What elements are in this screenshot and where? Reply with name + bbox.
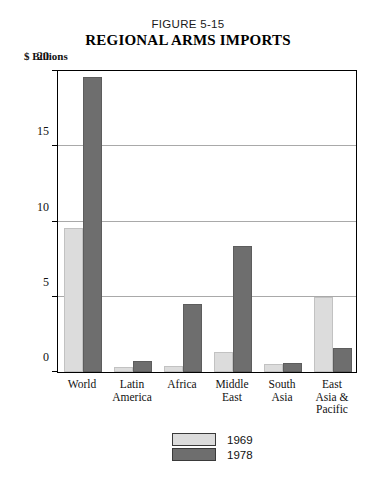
category-label-line: South — [257, 378, 307, 391]
category-label-line: Latin — [107, 378, 157, 391]
bar-group — [108, 71, 158, 372]
y-axis-tick-label: 0 — [43, 350, 49, 365]
bar — [233, 246, 252, 372]
x-axis-category-label: MiddleEast — [207, 378, 257, 403]
legend-item: 1969 — [172, 432, 253, 447]
x-axis-category-label: World — [57, 378, 107, 391]
x-axis-category-label: SouthAsia — [257, 378, 307, 403]
bar — [64, 228, 83, 372]
category-label-line: Africa — [157, 378, 207, 391]
legend-label: 1969 — [227, 434, 253, 446]
y-axis-tick-mark — [52, 70, 57, 71]
category-label-line: Asia & — [307, 391, 357, 404]
category-label-line: Pacific — [307, 403, 357, 416]
legend: 19691978 — [172, 432, 253, 462]
legend-color-swatch — [172, 448, 216, 461]
legend-label: 1978 — [227, 449, 253, 461]
figure-root: FIGURE 5-15 REGIONAL ARMS IMPORTS $ Bill… — [0, 0, 376, 489]
y-axis-tick-label: 20 — [37, 49, 49, 64]
bar-group — [308, 71, 358, 372]
y-axis-tick-mark — [52, 221, 57, 222]
category-label-line: East — [207, 391, 257, 404]
category-label-line: World — [57, 378, 107, 391]
y-axis-tick-mark — [52, 371, 57, 372]
bar — [83, 77, 102, 372]
legend-color-swatch — [172, 433, 216, 446]
x-axis-category-label: LatinAmerica — [107, 378, 157, 403]
bar — [114, 367, 133, 372]
plot-area: 05101520 — [57, 70, 357, 373]
bar — [183, 304, 202, 372]
bar-group — [158, 71, 208, 372]
bar-group — [58, 71, 108, 372]
bar — [133, 361, 152, 372]
y-axis-tick-label: 5 — [43, 274, 49, 289]
y-axis-tick-mark — [52, 145, 57, 146]
bar — [333, 348, 352, 372]
category-label-line: America — [107, 391, 157, 404]
bar — [314, 297, 333, 372]
bar — [164, 366, 183, 372]
bar-group — [258, 71, 308, 372]
y-axis-tick-label: 15 — [37, 124, 49, 139]
category-label-line: Middle — [207, 378, 257, 391]
x-axis-category-label: Africa — [157, 378, 207, 391]
y-axis-tick-label: 10 — [37, 199, 49, 214]
category-label-line: Asia — [257, 391, 307, 404]
bar — [283, 363, 302, 372]
bar-group — [208, 71, 258, 372]
figure-number: FIGURE 5-15 — [0, 18, 376, 30]
bar — [264, 364, 283, 372]
figure-title: REGIONAL ARMS IMPORTS — [0, 32, 376, 49]
bar — [214, 352, 233, 372]
x-axis-category-label: EastAsia &Pacific — [307, 378, 357, 416]
y-axis-tick-mark — [52, 296, 57, 297]
category-label-line: East — [307, 378, 357, 391]
legend-item: 1978 — [172, 447, 253, 462]
